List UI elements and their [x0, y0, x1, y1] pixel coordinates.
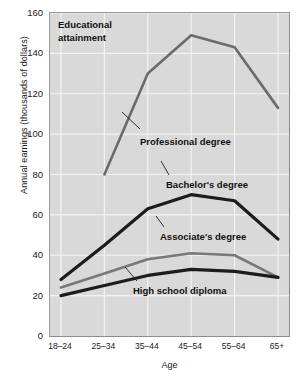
chart-inline-title-line2: attainment [58, 31, 112, 44]
y-tick-20: 20 [32, 289, 43, 300]
y-tick-60: 60 [32, 208, 43, 219]
series-label-associates-degree: Associate's degree [160, 231, 246, 242]
y-tick-100: 100 [27, 128, 43, 139]
y-tick-40: 40 [32, 249, 43, 260]
series-line-associate-s-degree [61, 253, 278, 287]
chart-figure: Annual earnings (thousands of dollars) 0… [0, 0, 298, 376]
x-tick-2: 35–44 [135, 341, 159, 351]
y-axis-tick-labels: 020406080100120140160 [0, 0, 46, 376]
series-label-professional-degree: Professional degree [140, 136, 231, 147]
series-label-high-school-diploma: High school diploma [133, 285, 226, 296]
series-label-bachelors-degree: Bachelor's degree [166, 179, 248, 190]
y-tick-120: 120 [27, 87, 43, 98]
x-tick-0: 18–24 [48, 341, 72, 351]
leader-line-1 [161, 161, 169, 175]
x-tick-4: 55–64 [222, 341, 246, 351]
x-axis-tick-labels: 18–2425–3435–4445–5455–6465+ [0, 341, 298, 357]
x-tick-1: 25–34 [92, 341, 116, 351]
x-tick-3: 45–54 [178, 341, 202, 351]
chart-inline-title-line1: Educational [58, 18, 112, 31]
x-tick-5: 65+ [270, 341, 284, 351]
chart-inline-title: Educational attainment [58, 18, 112, 44]
x-axis-label: Age [49, 360, 290, 370]
y-tick-0: 0 [38, 330, 43, 341]
y-tick-160: 160 [27, 7, 43, 18]
y-tick-140: 140 [27, 47, 43, 58]
y-tick-80: 80 [32, 168, 43, 179]
leader-line-2 [156, 216, 164, 227]
